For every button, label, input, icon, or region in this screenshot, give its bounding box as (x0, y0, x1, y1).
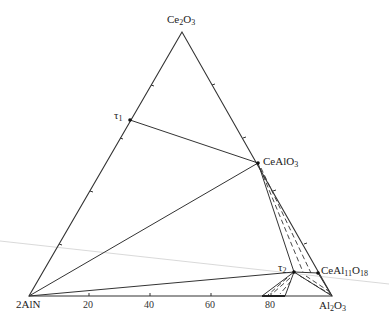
phase-label-tau2: τ2 (278, 261, 286, 275)
point-cealo3 (256, 161, 260, 165)
phase-label-tau1: τ1 (114, 109, 122, 123)
tick-label-60: 60 (205, 299, 215, 310)
vertex-label-2aln: 2AlN (16, 298, 40, 310)
phase-label-cealo3: CeAlO3 (263, 155, 298, 169)
left-edge-ticks (59, 85, 154, 245)
tick-label-80: 80 (265, 299, 275, 310)
point-ceal11o18 (316, 271, 320, 275)
point-tau1 (128, 118, 132, 122)
ternary-diagram (0, 0, 389, 333)
tick-label-40: 40 (144, 299, 154, 310)
vertex-label-ce2o3: Ce2O3 (167, 13, 195, 27)
vertex-label-al2o3: Al2O3 (319, 299, 346, 313)
point-tau2 (292, 270, 296, 274)
phase-label-ceal11o18: CeAl11O18 (321, 264, 368, 278)
tick-label-20: 20 (83, 299, 93, 310)
tie-lines (29, 120, 332, 296)
